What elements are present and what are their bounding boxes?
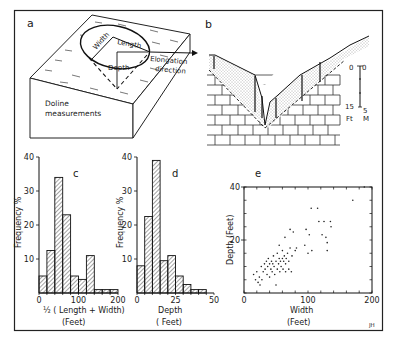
x-tick-label: 200 [364,296,379,305]
scatter-point [318,221,320,223]
scatter-point [279,271,281,273]
scatter-point [269,263,271,265]
histogram-bar [137,266,145,293]
panel-d-xlabel-line1: Depth [158,306,182,315]
scatter-point [291,271,293,273]
scatter-point [282,268,284,270]
scatter-point [278,263,280,265]
scatter-point [256,271,258,273]
histogram-bar [183,285,191,294]
panel-b-cross-section: b [205,18,369,145]
panel-a-block-diagram: a Width Length Depth [27,15,198,138]
histogram-bar [55,177,63,293]
panel-c-xlabel-line2: (Feet) [62,318,85,327]
scale-m-unit: M [363,115,369,123]
histogram-bar [176,276,184,293]
scatter-point [253,274,255,276]
panel-e-xlabel-line1: Width [290,306,313,315]
scatter-point [294,250,296,252]
scatter-point [311,250,313,252]
histogram-bar [94,290,102,293]
scatter-point [260,266,262,268]
scatter-point [317,207,319,209]
scatter-point [289,229,291,231]
panel-c-ylabel: Frequency % [14,196,23,248]
histogram-bar [145,217,153,294]
scatter-point [330,221,332,223]
scatter-point [282,250,284,252]
panel-d-xlabel-line2: ( Feet) [156,318,182,327]
author-credit: JH [368,322,375,329]
histogram-bar [152,160,160,293]
scatter-point [276,268,278,270]
x-tick-label: 100 [300,296,315,305]
scatter-point [364,186,366,188]
scatter-point [283,260,285,262]
scatter-point [285,258,287,260]
scatter-point [264,263,266,265]
scatter-point [326,250,328,252]
panel-d-histogram: d Frequency % 1020304002550 Depth ( Feet… [116,153,219,327]
y-tick-label: 20 [122,221,132,230]
histogram-bar [47,251,55,294]
panel-c-label: c [73,168,79,179]
panel-e-label: e [255,168,261,179]
scale-m-bottom: 5 [363,107,367,115]
scatter-point [280,260,282,262]
scatter-point [352,199,354,201]
scatter-point [268,258,270,260]
y-tick-label: 10 [24,255,34,264]
y-tick-label: 20 [230,236,240,245]
scatter-point [292,231,294,233]
scatter-point [291,255,293,257]
scatter-point [325,237,327,239]
doline-figure: a Width Length Depth [0,0,395,346]
scatter-point [273,255,275,257]
scatter-point [275,284,277,286]
depth-label: Depth [108,64,129,72]
histogram-bar [102,290,110,293]
y-tick-label: 40 [122,153,132,162]
scatter-point [276,252,278,254]
scatter-point [326,242,328,244]
scatter-point [259,276,261,278]
scatter-point [259,284,261,286]
histogram-bar [168,256,176,293]
scatter-point [287,252,289,254]
histogram-bar [63,215,71,293]
y-tick-label: 10 [122,255,132,264]
scatter-point [304,245,306,247]
scatter-point [323,221,325,223]
scatter-point [275,260,277,262]
x-tick-label: 200 [110,296,125,305]
scatter-point [289,247,291,249]
histogram-bar [110,290,118,293]
scatter-point [278,245,280,247]
x-tick-label: 50 [209,296,219,305]
scatter-point [282,258,284,260]
x-tick-label: 0 [36,296,41,305]
scatter-point [307,252,309,254]
scatter-point [257,282,259,284]
scatter-point [280,266,282,268]
scatter-point [296,247,298,249]
scatter-point [267,266,269,268]
scatter-point [288,268,290,270]
doline-title-line1: Doline [45,99,69,108]
scatter-point [274,274,276,276]
depth-scale-bar: 0 0 15 5 Ft M [345,64,369,123]
doline-title-line2: measurements [45,109,101,118]
histogram-bar [79,279,87,293]
scatter-point [278,258,280,260]
scatter-point [266,274,268,276]
scatter-point [330,226,332,228]
panel-b-label: b [205,18,212,31]
scatter-point [308,234,310,236]
histogram-bar [191,290,199,293]
x-tick-label: 0 [134,296,139,305]
scale-m-top: 0 [362,64,366,72]
y-tick-label: 30 [24,187,34,196]
scatter-point [270,268,272,270]
panel-c-histogram: c Frequency % 102030400100200 ½ ( Length… [14,153,126,327]
scatter-point [264,268,266,270]
